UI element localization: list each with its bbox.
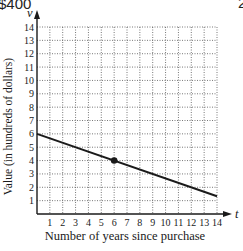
x-tick-label: 1 [47, 217, 52, 228]
y-tick-label: 10 [24, 75, 34, 86]
x-tick-label: 10 [161, 217, 171, 228]
x-tick-label: 6 [112, 217, 117, 228]
value-vs-years-chart: $400 2 1234567891011121314 1234567891011… [0, 0, 243, 251]
x-tick-label: 13 [199, 217, 209, 228]
y-tick-label: 8 [29, 102, 34, 113]
y-tick-label: 4 [29, 155, 34, 166]
y-tick-label: 6 [29, 128, 34, 139]
header-right-partial-text: 2 [238, 0, 243, 11]
y-tick-label: 1 [29, 195, 34, 206]
x-tick-label: 8 [137, 217, 142, 228]
x-tick-label: 9 [150, 217, 155, 228]
x-axis-variable: t [235, 207, 239, 221]
y-tick-label: 14 [24, 22, 34, 33]
x-tick-label: 4 [86, 217, 91, 228]
x-tick-label: 3 [73, 217, 78, 228]
value-line [37, 134, 217, 196]
x-tick-labels: 1234567891011121314 [47, 217, 222, 228]
x-axis-arrow-icon [223, 211, 232, 217]
axes [34, 10, 232, 217]
y-tick-label: 12 [24, 48, 34, 59]
y-tick-label: 9 [29, 88, 34, 99]
x-tick-label: 2 [60, 217, 65, 228]
x-tick-label: 5 [99, 217, 104, 228]
x-tick-label: 11 [174, 217, 184, 228]
y-tick-label: 13 [24, 35, 34, 46]
y-tick-labels: 1234567891011121314 [24, 22, 34, 207]
x-tick-label: 12 [186, 217, 196, 228]
y-tick-label: 7 [29, 115, 34, 126]
x-tick-label: 7 [125, 217, 130, 228]
y-tick-label: 3 [29, 168, 34, 179]
data-series [37, 134, 217, 196]
y-axis-arrow-icon [34, 10, 40, 19]
data-point-dot [111, 157, 118, 164]
y-tick-label: 11 [24, 62, 34, 73]
x-axis-label: Number of years since purchase [45, 229, 206, 243]
y-tick-label: 2 [29, 182, 34, 193]
y-axis-label: Value (in hundreds of dollars) [2, 58, 15, 195]
y-tick-label: 5 [29, 142, 34, 153]
x-tick-label: 14 [212, 217, 222, 228]
y-axis-variable: v [27, 6, 33, 20]
